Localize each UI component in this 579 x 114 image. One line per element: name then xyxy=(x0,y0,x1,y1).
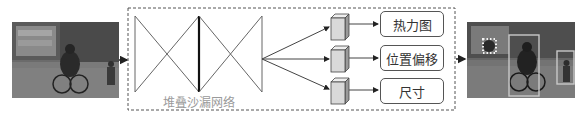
size-head-label: 尺寸 xyxy=(380,78,444,104)
heatmap-head-label: 热力图 xyxy=(380,11,444,37)
branch-arrow-3 xyxy=(262,59,329,89)
feature-cube-2 xyxy=(331,46,349,72)
branch-arrow-1 xyxy=(262,27,329,59)
hourglass-module-2 xyxy=(199,16,262,92)
offset-head-label: 位置偏移 xyxy=(380,45,444,71)
feature-cube-1 xyxy=(331,14,349,40)
feature-cube-3 xyxy=(331,78,349,104)
output-image xyxy=(467,22,575,98)
network-caption: 堆叠沙漏网络 xyxy=(163,93,235,110)
hourglass-module-1 xyxy=(135,16,199,92)
